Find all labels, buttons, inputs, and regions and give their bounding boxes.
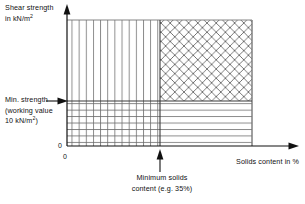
region-lower-right-quadrant xyxy=(160,101,252,146)
figure-container: Shear strength in kN/m2 Min. strength (w… xyxy=(0,0,305,204)
min-strength-line3: 10 kN/m2) xyxy=(5,116,53,127)
min-strength-label: Min. strength (working value 10 kN/m2) xyxy=(5,95,53,127)
y-axis-label-line2: in kN/m2 xyxy=(5,14,54,25)
min-solids-caption-line2: content (e.g. 35%) xyxy=(108,184,216,195)
region-upper-right-quadrant xyxy=(160,20,252,101)
region-upper-left-quadrant xyxy=(67,20,160,101)
min-solids-annotation-arrow xyxy=(157,149,164,172)
x-axis-origin-label: 0 xyxy=(63,152,67,163)
min-solids-caption: Minimum solids content (e.g. 35%) xyxy=(108,173,216,194)
min-strength-value-text: 10 kN/m xyxy=(5,116,32,125)
y-axis-unit-text: in kN/m xyxy=(5,14,30,23)
y-axis-origin-label: 0 xyxy=(58,141,62,152)
x-axis-label: Solids content in % xyxy=(236,157,299,168)
y-axis-unit-exponent: 2 xyxy=(30,12,33,18)
min-strength-paren: ) xyxy=(35,116,38,125)
min-strength-line1: Min. strength xyxy=(5,95,53,106)
min-strength-line2: (working value xyxy=(5,106,53,117)
y-axis-label: Shear strength in kN/m2 xyxy=(5,3,54,24)
min-solids-caption-line1: Minimum solids xyxy=(108,173,216,184)
region-lower-left-quadrant xyxy=(67,101,160,146)
